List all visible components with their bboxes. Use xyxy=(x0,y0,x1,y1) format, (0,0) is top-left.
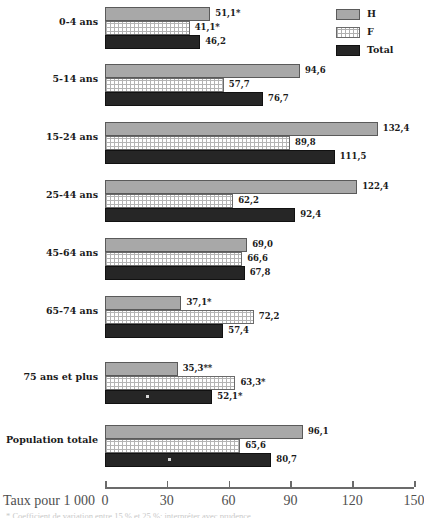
bar-value-label: 57,7 xyxy=(229,79,250,89)
bar-f xyxy=(105,21,190,35)
bar-value-label: 35,3** xyxy=(183,363,213,373)
bar-f xyxy=(105,439,240,453)
bar-f xyxy=(105,136,290,150)
legend-item-total[interactable]: Total xyxy=(336,44,420,61)
bar-value-label: 69,0 xyxy=(252,239,273,249)
bar-value-label: 132,4 xyxy=(383,123,410,133)
x-axis-tick-label: 60 xyxy=(222,493,236,509)
bar-value-label: 51,1* xyxy=(215,8,240,18)
x-axis-tick-label: 120 xyxy=(342,493,363,509)
bar-h xyxy=(105,238,247,252)
bar-inner-mark xyxy=(146,395,149,398)
bar-total xyxy=(105,92,263,106)
category-label: 25-44 ans xyxy=(0,189,98,200)
bar-h xyxy=(105,180,357,194)
category-label: 0-4 ans xyxy=(0,16,98,27)
bar-h xyxy=(105,64,300,78)
bar-f xyxy=(105,194,233,208)
bar-value-label: 63,3* xyxy=(240,377,265,387)
bar-value-label: 57,4 xyxy=(228,325,249,335)
category-label: 5-14 ans xyxy=(0,73,98,84)
bar-total xyxy=(105,35,200,49)
bar-value-label: 67,8 xyxy=(250,267,271,277)
bar-value-label: 111,5 xyxy=(340,151,367,161)
bar-h xyxy=(105,362,178,376)
bar-h xyxy=(105,122,378,136)
bar-value-label: 72,2 xyxy=(259,311,280,321)
chart-footnote: * Coefficient de variation entre 15 % et… xyxy=(6,511,253,518)
bar-total xyxy=(105,324,223,338)
bar-value-label: 76,7 xyxy=(268,93,289,103)
legend-label: Total xyxy=(367,44,393,55)
bar-value-label: 94,6 xyxy=(305,65,326,75)
bar-value-label: 52,1* xyxy=(217,391,242,401)
bar-value-label: 96,1 xyxy=(308,426,329,436)
bar-h xyxy=(105,425,303,439)
category-label: 75 ans et plus xyxy=(0,371,98,382)
bar-value-label: 65,6 xyxy=(245,440,266,450)
bar-f xyxy=(105,252,242,266)
bar-total xyxy=(105,453,271,467)
x-axis-tick xyxy=(414,481,416,487)
bar-f xyxy=(105,310,254,324)
x-axis-tick xyxy=(105,481,107,487)
x-axis-tick-label: 150 xyxy=(404,493,424,509)
x-axis-tick xyxy=(229,481,231,487)
category-label: 45-64 ans xyxy=(0,247,98,258)
chart-legend: HFTotal xyxy=(336,8,420,62)
legend-item-f[interactable]: F xyxy=(336,26,420,43)
bar-value-label: 80,7 xyxy=(276,454,297,464)
legend-swatch-icon xyxy=(336,45,360,56)
bar-f xyxy=(105,376,235,390)
bar-total xyxy=(105,208,295,222)
x-axis-title: Taux pour 1 000 xyxy=(3,493,95,509)
legend-swatch-icon xyxy=(336,27,360,38)
bar-h xyxy=(105,296,181,310)
bar-value-label: 92,4 xyxy=(300,209,321,219)
x-axis-tick xyxy=(167,481,169,487)
legend-label: H xyxy=(367,8,376,19)
legend-swatch-icon xyxy=(336,9,360,20)
bar-value-label: 62,2 xyxy=(238,195,259,205)
bar-inner-mark xyxy=(168,458,171,461)
bar-value-label: 122,4 xyxy=(362,181,389,191)
x-axis-tick-label: 0 xyxy=(102,493,109,509)
bar-h xyxy=(105,7,210,21)
bar-total xyxy=(105,390,212,404)
category-label: 65-74 ans xyxy=(0,305,98,316)
x-axis-line xyxy=(105,487,414,489)
category-label: Population totale xyxy=(0,434,98,445)
x-axis-tick-label: 30 xyxy=(160,493,174,509)
legend-label: F xyxy=(367,26,374,37)
bar-value-label: 89,8 xyxy=(295,137,316,147)
x-axis-tick xyxy=(352,481,354,487)
legend-item-h[interactable]: H xyxy=(336,8,420,25)
bar-total xyxy=(105,150,335,164)
bar-value-label: 37,1* xyxy=(186,297,211,307)
x-axis-tick-label: 90 xyxy=(283,493,297,509)
bar-total xyxy=(105,266,245,280)
x-axis-tick xyxy=(290,481,292,487)
horizontal-bar-chart: 0-4 ans51,1*41,1*46,25-14 ans94,657,776,… xyxy=(0,0,424,518)
category-label: 15-24 ans xyxy=(0,131,98,142)
bar-value-label: 66,6 xyxy=(247,253,268,263)
bar-value-label: 46,2 xyxy=(205,36,226,46)
bar-value-label: 41,1* xyxy=(195,22,220,32)
bar-f xyxy=(105,78,224,92)
